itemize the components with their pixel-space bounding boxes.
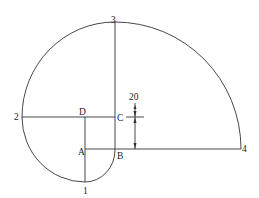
label-C: C [117, 113, 123, 123]
arc-1-to-2 [22, 117, 85, 182]
arc-2-to-3 [22, 22, 115, 117]
label-2: 2 [14, 112, 19, 122]
arc-3-to-4 [115, 22, 241, 149]
dimension-label: 20 [129, 92, 139, 102]
label-3: 3 [111, 15, 116, 25]
spiral-diagram: 3 2 D C A B 1 4 20 [0, 0, 259, 198]
label-A: A [78, 147, 85, 157]
arrow-up-icon [134, 111, 137, 117]
arrow-up-icon [134, 105, 137, 109]
label-1: 1 [83, 186, 88, 196]
arc-B-to-1 [85, 150, 115, 182]
arrow-down-icon [134, 143, 137, 149]
label-D: D [79, 107, 86, 117]
arrow-down-icon [134, 117, 137, 123]
label-B: B [117, 151, 123, 161]
label-4: 4 [242, 144, 247, 154]
